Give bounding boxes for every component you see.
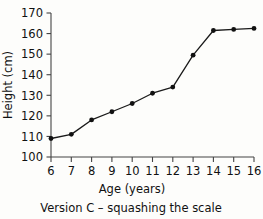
- x-axis-title: Age (years): [99, 182, 166, 196]
- data-point: [170, 85, 175, 90]
- data-point: [49, 136, 54, 141]
- x-tick-label: 16: [247, 164, 262, 178]
- height-series-line: [51, 28, 254, 138]
- y-tick-label: 100: [21, 150, 43, 164]
- data-point: [211, 28, 216, 33]
- y-axis-ticks: [47, 13, 52, 157]
- y-tick-label: 130: [21, 89, 43, 103]
- x-tick-label: 7: [68, 164, 75, 178]
- data-point: [69, 132, 74, 137]
- y-tick-label: 140: [21, 68, 43, 82]
- x-axis-tick-labels: 6 7 8 9 10 11 12 13 14 15 16: [47, 164, 261, 178]
- x-tick-label: 8: [88, 164, 95, 178]
- data-point: [130, 101, 135, 106]
- x-tick-label: 13: [186, 164, 201, 178]
- y-axis-tick-labels: 170 160 150 140 130 120 110 100: [21, 6, 43, 164]
- data-point: [110, 109, 115, 114]
- data-point: [89, 118, 94, 123]
- data-point: [191, 53, 196, 58]
- y-tick-label: 110: [21, 130, 43, 144]
- x-tick-label: 11: [145, 164, 160, 178]
- x-tick-label: 12: [165, 164, 180, 178]
- y-axis-title: Height (cm): [1, 51, 15, 119]
- x-tick-label: 9: [108, 164, 115, 178]
- data-point: [150, 91, 155, 96]
- y-tick-label: 150: [21, 47, 43, 61]
- x-tick-label: 10: [125, 164, 140, 178]
- y-tick-label: 160: [21, 27, 43, 41]
- data-point: [252, 26, 257, 31]
- data-point: [231, 27, 236, 32]
- y-tick-label: 120: [21, 109, 43, 123]
- x-tick-label: 14: [206, 164, 221, 178]
- chart-caption: Version C – squashing the scale: [40, 201, 222, 215]
- x-axis-ticks: [51, 157, 254, 162]
- height-series-markers: [49, 26, 257, 141]
- chart-figure: 170 160 150 140 130 120 110 100 6 7: [0, 0, 263, 219]
- y-tick-label: 170: [21, 6, 43, 20]
- line-chart-canvas: 170 160 150 140 130 120 110 100 6 7: [0, 0, 263, 219]
- x-tick-label: 15: [226, 164, 241, 178]
- x-tick-label: 6: [47, 164, 54, 178]
